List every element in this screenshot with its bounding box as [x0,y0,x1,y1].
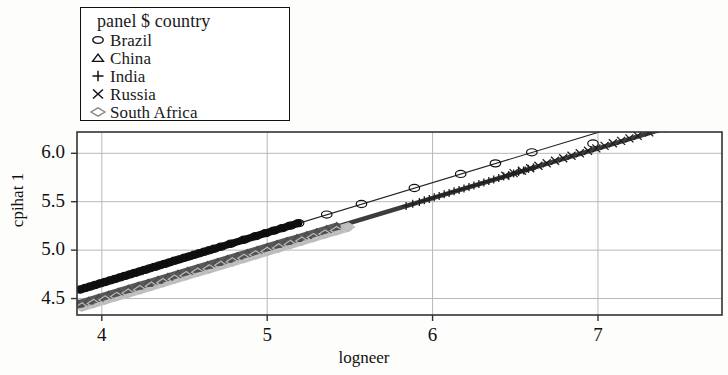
circle-icon [86,32,110,48]
legend-item-india: India [81,67,289,85]
x-tick-label: 5 [252,324,282,346]
legend-items: BrazilChinaIndiaRussiaSouth Africa [81,31,289,121]
y-tick-label: 4.5 [19,287,65,309]
diamond-icon [86,104,110,120]
x-tick-label: 4 [87,324,117,346]
plot-background [77,132,722,315]
plus-icon [86,68,110,84]
x-tick-label: 7 [583,324,613,346]
legend-title: panel $ country [81,11,289,31]
cross-icon [86,86,110,102]
legend-item-brazil: Brazil [81,31,289,49]
legend-item-label: Brazil [110,32,152,49]
legend-item-label: Russia [110,86,156,103]
x-tick-label: 6 [418,324,448,346]
y-axis-label: cpihat 1 [8,145,28,255]
legend-item-label: China [110,50,151,67]
triangle-icon [86,50,110,66]
x-axis-label: logneer [0,348,728,368]
legend-item-label: India [110,68,145,85]
legend-item-label: South Africa [110,104,198,121]
legend-box: panel $ country BrazilChinaIndiaRussiaSo… [80,7,290,121]
data-point-cross [672,120,680,128]
data-point-cross [685,116,693,124]
legend-item-russia: Russia [81,85,289,103]
data-point-cross [697,113,705,121]
chart-figure: 4.5 5.0 5.5 6.0 4 5 6 7 logneer cpihat 1… [0,0,728,375]
legend-item-china: China [81,49,289,67]
legend-item-south-africa: South Africa [81,103,289,121]
